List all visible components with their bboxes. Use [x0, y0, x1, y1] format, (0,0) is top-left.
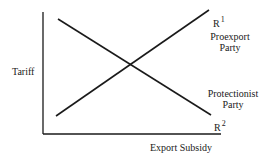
protectionist-party-label: Protectionist Party: [203, 88, 263, 110]
proexport-line-2: Party: [205, 42, 255, 53]
protectionist-line-2: Party: [203, 99, 263, 110]
protectionist-line-1: Protectionist: [203, 88, 263, 99]
r2-label-sup: 2: [222, 119, 226, 128]
y-axis-label: Tariff: [12, 66, 34, 77]
r1-label-sup: 1: [221, 15, 225, 24]
r2-label: R2: [214, 118, 226, 133]
diagram-canvas: [0, 0, 270, 160]
r2-label-base: R: [214, 122, 221, 133]
line-r2-protectionist: [58, 19, 211, 115]
x-axis-label: Export Subsidy: [150, 142, 212, 153]
r1-label: R1: [213, 14, 225, 29]
proexport-line-1: Proexport: [205, 31, 255, 42]
r1-label-base: R: [213, 18, 220, 29]
proexport-party-label: Proexport Party: [205, 31, 255, 53]
